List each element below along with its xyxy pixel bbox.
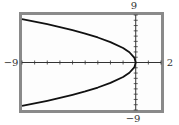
ymax-label: 9: [131, 0, 137, 11]
xmin-label: −9: [4, 57, 19, 68]
ymin-label: −9: [126, 113, 141, 124]
xmax-label: 2: [167, 57, 173, 68]
calculator-graph: 9 −9 −9 2: [0, 0, 179, 125]
